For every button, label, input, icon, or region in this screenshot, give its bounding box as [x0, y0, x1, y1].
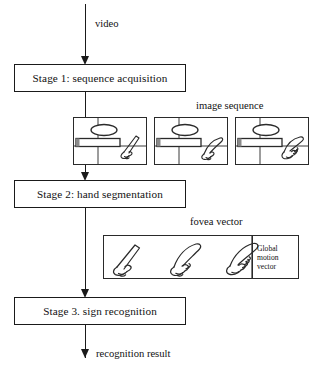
stage-3-label: Stage 3. sign recognition — [43, 305, 157, 317]
frame-3-scene — [236, 118, 308, 164]
stage-1-box[interactable]: Stage 1: sequence acquisition — [14, 64, 186, 92]
fovea-vector-box: Global motion vector — [103, 235, 299, 279]
input-flow-line — [85, 4, 86, 60]
image-sequence-label: image sequence — [196, 100, 263, 111]
global-motion-vector-line-2: motion — [257, 253, 279, 262]
global-motion-vector-line-3: vector — [257, 262, 276, 271]
fovea-hand-1 — [114, 245, 140, 276]
stage2-to-stage3-line — [85, 208, 86, 293]
frame-2-scene — [155, 118, 227, 164]
image-sequence-frame-3 — [235, 117, 309, 165]
stage-2-box[interactable]: Stage 2: hand segmentation — [14, 180, 186, 208]
stage-2-label: Stage 2: hand segmentation — [37, 188, 163, 200]
image-sequence-frame-1 — [73, 117, 147, 165]
output-arrowhead — [81, 349, 89, 358]
image-sequence-frame-2 — [154, 117, 228, 165]
stage-1-label: Stage 1: sequence acquisition — [33, 72, 168, 84]
fovea-vector-label: fovea vector — [190, 216, 243, 227]
flowchart-diagram: video Stage 1: sequence acquisition imag… — [0, 0, 311, 373]
output-label: recognition result — [96, 348, 170, 359]
global-motion-vector-line-1: Global — [257, 244, 278, 253]
input-label: video — [95, 18, 119, 29]
global-motion-vector-cell: Global motion vector — [252, 236, 298, 278]
stage-3-box[interactable]: Stage 3. sign recognition — [14, 297, 186, 325]
frame-1-scene — [74, 118, 146, 164]
fovea-hand-2 — [171, 244, 201, 276]
